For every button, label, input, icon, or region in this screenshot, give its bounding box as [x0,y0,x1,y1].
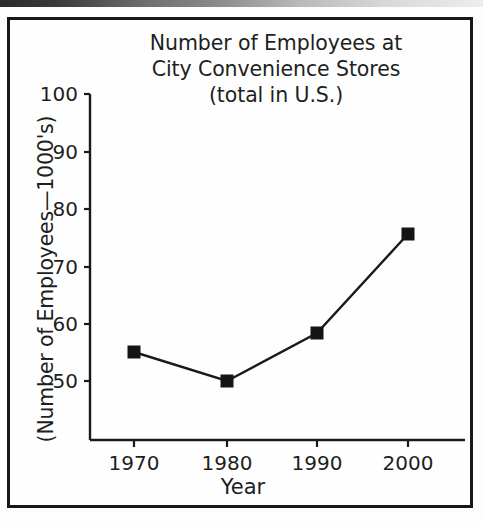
y-tick-label-60: 60 [32,314,78,334]
y-tick-label-90: 90 [32,142,78,162]
x-axis-label: Year [10,475,476,499]
chart-svg [10,20,476,511]
y-tick-label-70: 70 [32,257,78,277]
x-tick-label-1990: 1990 [281,453,353,473]
plot-area: 100 90 80 70 60 50 1970 1980 1990 2000 Y… [10,20,476,511]
y-tick-label-50: 50 [32,371,78,391]
data-series-line [134,234,408,381]
chart-figure-frame: Number of Employees at City Convenience … [7,17,473,508]
data-point-2000 [402,228,415,241]
x-tick-label-1980: 1980 [191,453,263,473]
data-point-1970 [128,346,141,359]
data-point-1990 [311,327,324,340]
y-tick-label-80: 80 [32,199,78,219]
x-tick-label-1970: 1970 [98,453,170,473]
scan-artifact-band [0,0,483,7]
data-point-1980 [221,375,234,388]
x-tick-label-2000: 2000 [372,453,444,473]
y-tick-label-100: 100 [32,84,78,104]
